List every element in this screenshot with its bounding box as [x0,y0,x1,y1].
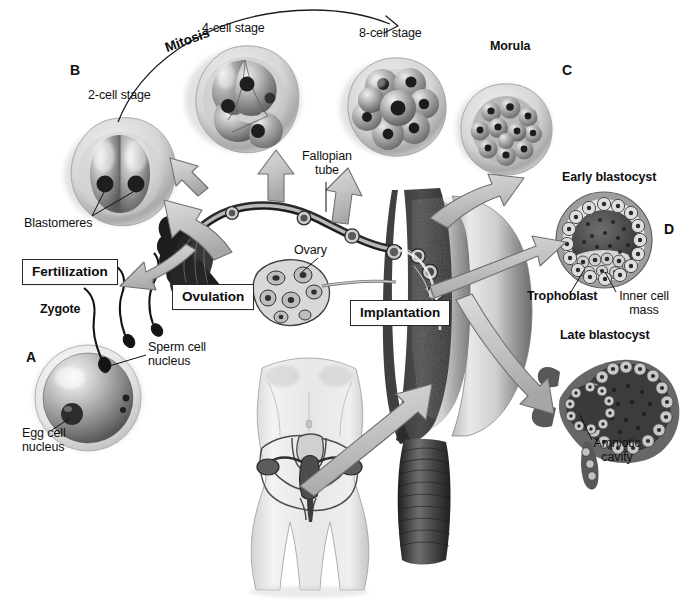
female-figure [249,358,369,598]
label-four-cell-stage: 4-cell stage [202,21,265,35]
label-ovary: Ovary [294,243,327,257]
four-cell-embryo [196,46,299,153]
process-box-fertilization[interactable]: Fertilization [22,259,118,285]
label-sperm-cell-nucleus: Sperm cell nucleus [148,340,206,368]
label-zygote: Zygote [40,302,80,316]
label-egg-cell-nucleus: Egg cell nucleus [22,426,66,454]
morula-embryo [461,84,552,175]
process-box-implantation[interactable]: Implantation [350,300,450,326]
label-two-cell-stage: 2-cell stage [88,88,151,102]
label-morula: Morula [490,39,530,53]
process-box-ovulation[interactable]: Ovulation [172,284,254,310]
blastomere-nucleus [128,176,145,193]
arrow-to-two-cell [170,158,208,196]
label-late-blastocyst: Late blastocyst [560,328,650,342]
eight-cell-embryo [348,58,446,156]
label-trophoblast: Trophoblast [527,289,597,303]
late-blastocyst [532,360,680,490]
label-early-blastocyst: Early blastocyst [562,170,656,184]
label-eight-cell-stage: 8-cell stage [359,26,422,40]
blastomere-nucleus [97,176,114,193]
label-inner-cell-mass: Inner cell mass [607,289,681,317]
figure-canvas: A B C D 2-cell stage 4-cell stage 8-cell… [0,0,697,600]
panel-letter-a: A [26,350,36,366]
label-blastomeres: Blastomeres [24,216,92,230]
early-blastocyst [556,192,652,292]
two-cell-embryo [71,118,176,226]
label-amniotic-cavity: Amniotic cavity [582,436,652,464]
panel-letter-b: B [70,63,80,79]
label-fallopian-tube: Fallopian tube [294,149,360,177]
panel-letter-c: C [562,63,572,79]
panel-letter-d: D [664,222,674,238]
arrow-to-four-cell [258,150,294,202]
